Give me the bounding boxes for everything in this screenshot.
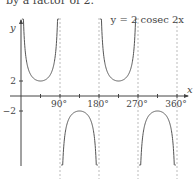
cosec-graph: 90°180°270°360°2−2yxy = 2 cosec 2x: [0, 0, 196, 179]
cosec-curve-branch: [139, 111, 176, 165]
x-tick-label: 270°: [126, 99, 148, 109]
y-tick-label: −2: [3, 106, 16, 116]
y-tick-label: 2: [10, 76, 16, 86]
equation-label: y = 2 cosec 2x: [110, 14, 185, 25]
x-tick-label: 360°: [165, 99, 187, 109]
cosec-curve-branch: [61, 111, 98, 165]
cosec-curve-branch: [22, 19, 59, 81]
cosec-curve-branch: [100, 19, 137, 81]
x-axis-label: x: [187, 84, 193, 95]
y-axis-label: y: [9, 22, 16, 33]
x-tick-label: 90°: [51, 99, 67, 109]
y-axis-arrow-icon: [19, 19, 23, 24]
x-tick-label: 180°: [87, 99, 109, 109]
